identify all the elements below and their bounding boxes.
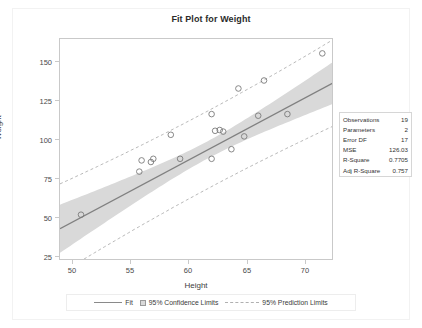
chart-legend: Fit 95% Confidence Limits 95% Prediction… <box>66 294 356 311</box>
stat-label: R-Square <box>343 155 369 164</box>
y-tick-label-75: 75 <box>30 175 52 184</box>
stat-value: 17 <box>401 135 408 144</box>
confidence-band-icon <box>140 300 146 306</box>
chart-title: Fit Plot for Weight <box>0 14 422 24</box>
stat-row-r-square: R-Square 0.7705 <box>340 155 411 165</box>
data-point <box>209 156 215 162</box>
legend-entry-confidence: 95% Confidence Limits <box>140 299 219 306</box>
y-tick-label-125: 125 <box>30 97 52 106</box>
y-axis-title: Weight <box>0 115 3 140</box>
fit-line-layer <box>60 82 333 228</box>
legend-entry-prediction: 95% Prediction Limits <box>225 299 327 306</box>
data-point <box>320 51 326 57</box>
data-point <box>209 111 215 117</box>
x-axis-title: Height <box>59 281 333 290</box>
stat-value: 2 <box>405 125 408 134</box>
x-tick-label-65: 65 <box>239 266 255 275</box>
x-tick-mark <box>72 260 73 264</box>
stat-label: Adj R-Square <box>343 166 380 175</box>
stat-value: 0.757 <box>393 166 408 175</box>
legend-entry-fit: Fit <box>94 299 133 306</box>
stat-value: 0.7705 <box>389 155 408 164</box>
x-tick-label-60: 60 <box>180 266 196 275</box>
data-point <box>261 78 267 84</box>
stat-label: MSE <box>343 145 356 154</box>
x-tick-label-55: 55 <box>122 266 138 275</box>
stat-value: 19 <box>401 115 408 124</box>
stat-row-mse: MSE 126.03 <box>340 145 411 155</box>
confidence-band-layer <box>60 61 333 253</box>
y-tick-label-25: 25 <box>30 253 52 262</box>
stat-row-error-df: Error DF 17 <box>340 134 411 144</box>
data-point <box>168 132 174 138</box>
y-tick-label-150: 150 <box>30 58 52 67</box>
data-point <box>236 86 242 92</box>
y-tick-label-50: 50 <box>30 214 52 223</box>
y-tick-label-100: 100 <box>30 136 52 145</box>
x-tick-label-50: 50 <box>64 266 80 275</box>
x-tick-mark <box>305 260 306 264</box>
fit-statistics-box: Observations 19 Parameters 2 Error DF 17… <box>339 112 412 177</box>
legend-label-fit: Fit <box>125 299 133 306</box>
plot-area <box>59 38 333 260</box>
stat-row-parameters: Parameters 2 <box>340 124 411 134</box>
x-tick-mark <box>130 260 131 264</box>
stat-value: 126.03 <box>389 145 408 154</box>
fit-plot-page: Fit Plot for Weight Weight 150 125 100 7… <box>0 0 422 328</box>
legend-label-confidence: 95% Confidence Limits <box>149 299 219 306</box>
x-tick-mark <box>247 260 248 264</box>
stat-row-observations: Observations 19 <box>340 114 411 124</box>
data-point <box>139 158 145 164</box>
x-tick-mark <box>188 260 189 264</box>
data-point <box>229 146 235 152</box>
prediction-line-icon <box>225 302 259 303</box>
fit-line-icon <box>94 302 122 303</box>
x-tick-label-70: 70 <box>297 266 313 275</box>
plot-canvas <box>60 39 333 260</box>
stat-label: Observations <box>343 115 379 124</box>
stat-label: Parameters <box>343 125 375 134</box>
stat-label: Error DF <box>343 135 367 144</box>
stat-row-adj-r-square: Adj R-Square 0.757 <box>340 165 411 175</box>
legend-label-prediction: 95% Prediction Limits <box>262 299 327 306</box>
